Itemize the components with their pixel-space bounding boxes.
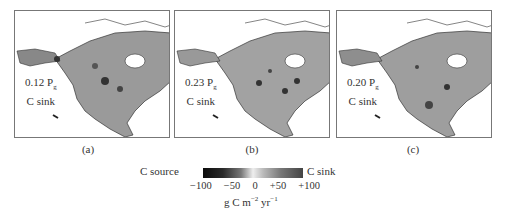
sink-annotation-a: 0.12 Pg C sink (25, 75, 57, 108)
map-panel-a: 0.12 Pg C sink (14, 10, 170, 138)
sink-annotation-c: 0.20 Pg C sink (347, 75, 379, 108)
map-panel-c: 0.20 Pg C sink (336, 10, 492, 138)
tick: 0 (252, 180, 257, 191)
panel-label-a: (a) (73, 143, 103, 155)
tick: −100 (190, 180, 212, 191)
colorbar-sink-label: C sink (307, 165, 335, 177)
colorbar-source-label: C source (140, 165, 179, 177)
sink-annotation-b: 0.23 Pg C sink (185, 75, 217, 108)
tick: −50 (224, 180, 240, 191)
colorbar (203, 168, 303, 178)
panel-label-c: (c) (398, 143, 428, 155)
tick: +100 (298, 180, 320, 191)
tick: +50 (270, 180, 286, 191)
map-panel-b: 0.23 Pg C sink (174, 10, 330, 138)
panel-label-b: (b) (237, 143, 267, 155)
colorbar-units: g C m−2 yr−1 (224, 195, 278, 208)
colorbar-ticks: −100 −50 0 +50 +100 (190, 180, 320, 191)
